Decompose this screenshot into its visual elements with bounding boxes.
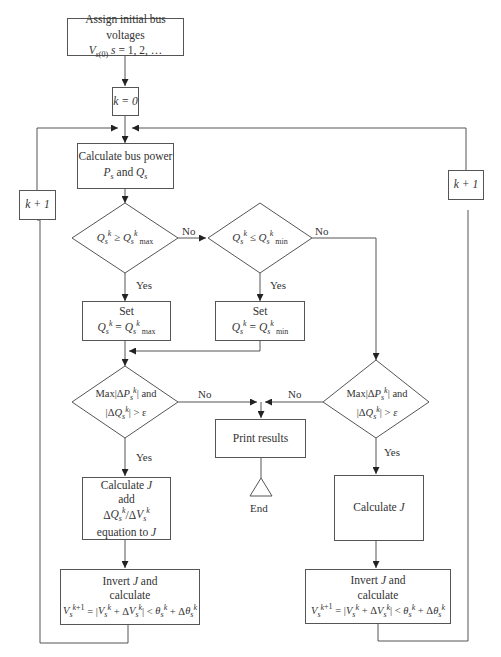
init-k-node: k = 0 <box>112 87 139 116</box>
increment-k-left-label: k + 1 <box>25 197 49 213</box>
edge-label-yes-4: Yes <box>384 446 400 458</box>
invert-j-left-node: Invert J and calculate Vsk+1 = |Vsk + ΔV… <box>60 569 200 625</box>
calc-j-left-line4: equation to J <box>97 525 156 539</box>
print-results-label: Print results <box>233 431 288 447</box>
invert-left-line3: Vsk+1 = |Vsk + ΔVsk| < θsk + Δθsk <box>63 603 197 621</box>
increment-k-left-node: k + 1 <box>19 190 56 220</box>
calc-power-line2: Ps and Qs <box>104 165 148 183</box>
edge-label-yes-3: Yes <box>136 451 152 463</box>
increment-k-right-label: k + 1 <box>454 177 478 193</box>
calc-j-add-node: Calculate J add ΔQsk/ΔVsk equation to J <box>82 477 171 540</box>
edge-label-yes-1: Yes <box>136 279 152 291</box>
start-line2: Vs(0) s = 1, 2, … <box>89 43 163 61</box>
decision-conv-right-text: Max|ΔPsk| and |ΔQsk| > ε <box>336 385 418 421</box>
calc-j-left-line3: ΔQsk/ΔVsk <box>103 507 150 525</box>
invert-right-line1: Invert J and <box>351 573 406 587</box>
invert-left-line1: Invert J and <box>103 574 158 588</box>
decision-qmax-text: Qsk ≥ Qsk max <box>80 228 170 248</box>
init-k-label: k = 0 <box>113 94 137 110</box>
calc-j-node: Calculate J <box>334 475 424 541</box>
set-qmin-line2: Qsk = Qsk min <box>232 319 289 338</box>
invert-right-line2: calculate <box>358 588 399 602</box>
set-qmin-node: Set Qsk = Qsk min <box>215 301 305 341</box>
start-line1: Assign initial bus voltages <box>68 12 183 43</box>
edge-label-no-1: No <box>182 225 195 237</box>
end-terminator-shape <box>250 478 272 496</box>
calc-bus-power-node: Calculate bus power Ps and Qs <box>77 143 174 189</box>
invert-left-line2: calculate <box>110 588 151 602</box>
set-qmax-line1: Set <box>119 304 134 320</box>
end-label: End <box>250 502 268 514</box>
decision-qmin-text: Qsk ≤ Qsk min <box>215 228 305 248</box>
edge-label-no-3: No <box>198 388 211 400</box>
invert-right-line3: Vsk+1 = |Vsk + ΔVsk| < θsk + Δθsk <box>311 602 445 620</box>
calc-j-left-line1: Calculate J <box>101 478 152 492</box>
set-qmax-node: Set Qsk = Qsk max <box>82 301 171 341</box>
edge-label-no-4: No <box>288 388 301 400</box>
calc-j-left-line2: add <box>118 492 135 506</box>
calc-power-line1: Calculate bus power <box>79 149 173 165</box>
print-results-node: Print results <box>215 419 306 458</box>
decision-conv-left-text: Max|ΔPsk| and |ΔQsk| > ε <box>85 385 167 421</box>
set-qmin-line1: Set <box>253 304 268 320</box>
invert-j-right-node: Invert J and calculate Vsk+1 = |Vsk + ΔV… <box>305 569 451 624</box>
calc-j-right-label: Calculate J <box>353 500 404 516</box>
edge-label-no-2: No <box>315 225 328 237</box>
edge-label-yes-2: Yes <box>270 279 286 291</box>
start-node: Assign initial bus voltages Vs(0) s = 1,… <box>67 18 184 56</box>
set-qmax-line2: Qsk = Qsk max <box>97 319 155 338</box>
increment-k-right-node: k + 1 <box>448 170 484 200</box>
